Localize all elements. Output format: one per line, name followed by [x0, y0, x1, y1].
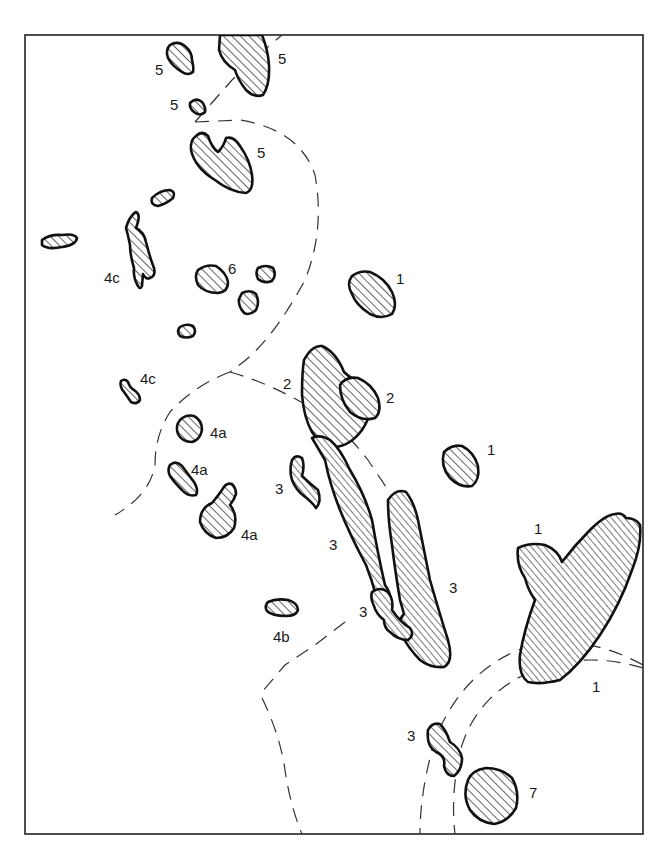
outcrop-6-a [196, 266, 228, 294]
outcrop-1-big [518, 514, 641, 684]
outcrop-4b [266, 599, 298, 616]
outcrop-4c-a [126, 212, 155, 288]
label-7: 7 [529, 784, 537, 801]
outcrop-4c-b [120, 380, 140, 403]
label-4a: 4a [210, 424, 227, 441]
outcrop-6-c [239, 291, 258, 314]
label-2: 2 [283, 375, 291, 392]
outcrop-1-a [349, 272, 395, 318]
label-5: 5 [278, 50, 286, 67]
outcrop-5-c [190, 100, 205, 115]
outcrop-4a-a [177, 416, 202, 443]
outcrop-3-bottom [428, 724, 462, 776]
label-4b: 4b [273, 628, 290, 645]
outcrop-6-b [257, 266, 275, 282]
label-3: 3 [275, 480, 283, 497]
label-4a: 4a [241, 526, 258, 543]
label-6: 6 [228, 260, 236, 277]
label-3: 3 [359, 603, 367, 620]
label-5: 5 [155, 61, 163, 78]
outcrop-small-3 [178, 325, 195, 338]
outcrop-1-b [443, 446, 479, 487]
outcrop-7 [465, 768, 517, 824]
label-5: 5 [257, 144, 265, 161]
label-1: 1 [487, 441, 495, 458]
label-3: 3 [407, 727, 415, 744]
label-5: 5 [170, 96, 178, 113]
outcrop-4a-c [200, 484, 236, 538]
outcrop-small-1 [152, 190, 174, 206]
label-3: 3 [329, 536, 337, 553]
outcrop-3-right [388, 491, 450, 667]
outcrop-diagram: 5 5 5 5 6 4c 4c 1 2 2 1 4a 4a 4a 3 3 1 3… [0, 0, 664, 855]
outcrop-small-2 [42, 234, 77, 248]
label-4c: 4c [104, 269, 120, 286]
label-1: 1 [592, 678, 600, 695]
label-4c: 4c [140, 370, 156, 387]
outcrop-3-small-a [291, 456, 320, 508]
label-3: 3 [449, 579, 457, 596]
label-4a: 4a [191, 461, 208, 478]
outcrop-5-a [167, 43, 193, 74]
label-1: 1 [396, 270, 404, 287]
outcrop-3-long [312, 436, 390, 602]
label-1: 1 [534, 520, 542, 537]
label-2: 2 [386, 389, 394, 406]
boundary-lower-left [262, 698, 302, 834]
outcrop-5-d [191, 133, 253, 193]
